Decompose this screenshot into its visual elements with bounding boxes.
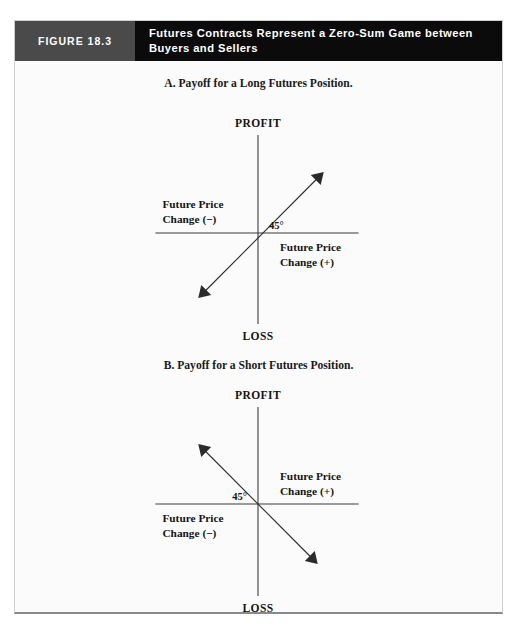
figure-number-label: FIGURE 18.3 bbox=[15, 21, 135, 61]
panel-a-payoff-line bbox=[203, 177, 319, 293]
panel-b-profit-label: PROFIT bbox=[235, 389, 281, 402]
panel-b-right-label-line-2: Change (+) bbox=[280, 485, 334, 498]
panel-b-angle-label: 45° bbox=[232, 491, 247, 502]
panel-a-left-label-line-1: Future Price bbox=[162, 198, 223, 210]
figure-title-line-2: Buyers and Sellers bbox=[149, 41, 473, 56]
panel-b-short-futures: B. Payoff for a Short Futures Position. … bbox=[15, 341, 502, 613]
figure-header: FIGURE 18.3 Futures Contracts Represent … bbox=[15, 21, 502, 61]
figure-frame: FIGURE 18.3 Futures Contracts Represent … bbox=[14, 20, 503, 614]
panel-a-right-label-line-1: Future Price bbox=[280, 241, 341, 253]
panel-b-right-label-line-1: Future Price bbox=[280, 470, 341, 482]
panel-a-profit-label: PROFIT bbox=[235, 117, 281, 130]
figure-title: Futures Contracts Represent a Zero-Sum G… bbox=[149, 26, 473, 56]
panel-b-chart: PROFIT LOSS Future Price Change (+) Futu… bbox=[15, 341, 502, 613]
panel-a-angle-label: 45° bbox=[269, 220, 284, 231]
figure-title-line-1: Futures Contracts Represent a Zero-Sum G… bbox=[149, 26, 473, 41]
panel-a-loss-label: LOSS bbox=[242, 330, 273, 341]
panel-b-loss-label: LOSS bbox=[242, 602, 273, 613]
panel-a-long-futures: A. Payoff for a Long Futures Position. P… bbox=[15, 61, 502, 341]
panel-a-right-label-line-2: Change (+) bbox=[280, 256, 334, 269]
panel-a-chart: PROFIT LOSS Future Price Change (−) Futu… bbox=[15, 61, 502, 341]
panel-b-left-label-line-2: Change (−) bbox=[162, 527, 216, 540]
panel-b-left-label-line-1: Future Price bbox=[162, 512, 223, 524]
figure-title-band: Futures Contracts Represent a Zero-Sum G… bbox=[135, 21, 502, 61]
panel-a-left-label-line-2: Change (−) bbox=[162, 213, 216, 226]
